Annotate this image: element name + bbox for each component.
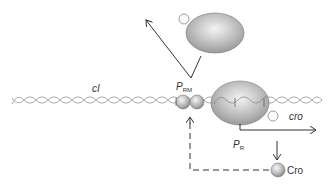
dna-helix (12, 97, 322, 104)
cro-protein-label: Cro (287, 165, 304, 176)
pr-transcription-arrow (240, 124, 316, 130)
repressor-monomer-1 (176, 95, 190, 109)
pr-label: PR (233, 139, 245, 151)
lambda-switch-diagram: cI PRM cro PR Cro (0, 0, 334, 196)
cro-gene-label: cro (289, 111, 303, 122)
cro-protein (271, 163, 285, 177)
cro-feedback-arrow (190, 117, 269, 170)
ci-repressor-dimer (176, 95, 204, 109)
rna-polymerase-at-pr (211, 81, 278, 125)
repressor-monomer-2 (190, 95, 204, 109)
sigma-factor (268, 111, 278, 121)
sigma-factor-top (179, 14, 189, 24)
prm-label: PRM (176, 81, 192, 93)
rna-polymerase-leaving-prm (179, 13, 244, 53)
ci-gene-label: cI (92, 83, 100, 94)
